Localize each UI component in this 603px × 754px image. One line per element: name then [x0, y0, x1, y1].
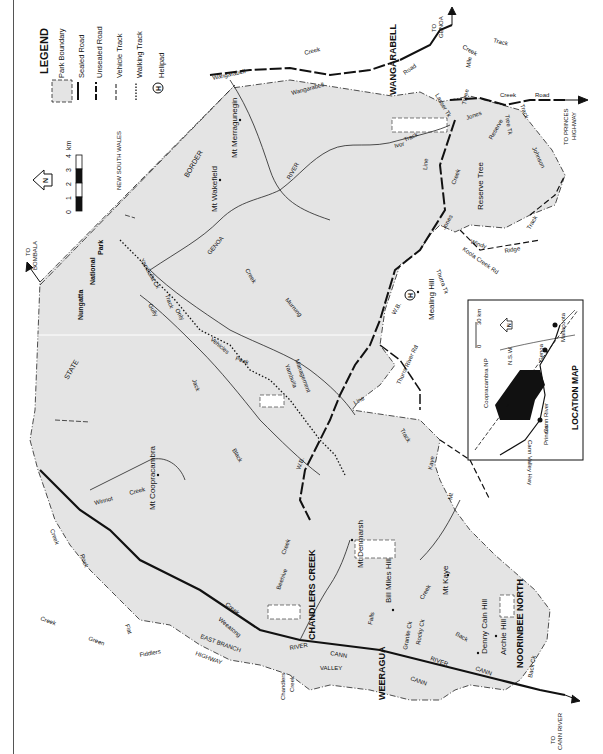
helipad-icon: H — [153, 83, 163, 93]
svg-text:Green: Green — [88, 635, 106, 646]
legend-park-boundary-label: Park Boundary — [57, 28, 66, 78]
np-label-nungatta: Nungatta — [77, 290, 85, 320]
svg-text:Track: Track — [493, 37, 510, 47]
scale-tick-4: 4 — [65, 154, 72, 158]
svg-text:Mt: Mt — [447, 492, 454, 500]
peak-coopracambra: Mt Coopracambra — [148, 445, 157, 510]
peak-merragunegin: Mt Merragunegin — [230, 98, 239, 158]
inset-mallacoota-label: Mallacoota — [560, 312, 566, 342]
inset-np-label: Coopracambra NP — [483, 358, 489, 408]
scale-tick-2: 2 — [65, 182, 72, 186]
svg-text:Fiddlers: Fiddlers — [139, 648, 161, 658]
svg-text:Wangarabell: Wangarabell — [212, 68, 246, 81]
peak-denmarsh: Mt Denmarsh — [356, 520, 365, 568]
svg-text:Creek: Creek — [304, 46, 322, 56]
town-weeragua: WEERAGUA — [377, 646, 387, 700]
peak-denny-cain: Denny Cain Hill — [480, 599, 489, 654]
dest-bombala-1: TO — [25, 247, 31, 256]
svg-text:H: H — [155, 86, 162, 91]
dest-princes-2: HIGHWAY — [571, 112, 577, 140]
dest-genoa-2: GENOA — [438, 16, 444, 38]
dest-cann-2: CANN RIVER — [557, 712, 563, 750]
legend-sealed-road-label: Sealed Road — [77, 35, 86, 78]
peak-archie: Archie Hill — [499, 619, 508, 655]
scale-tick-1: 1 — [65, 196, 72, 200]
svg-text:N: N — [42, 178, 49, 183]
svg-text:H: H — [407, 293, 414, 298]
legend-helipad-label: Helipad — [157, 53, 166, 78]
svg-text:Creek: Creek — [500, 92, 517, 98]
dest-genoa-1: TO — [431, 23, 437, 32]
inset-hwy-label: Hwy — [527, 396, 533, 408]
svg-text:W.B.: W.B. — [391, 301, 403, 315]
inset-scale-30: 30 km — [476, 309, 482, 325]
svg-text:N: N — [506, 323, 512, 327]
svg-text:Ridge: Ridge — [504, 245, 521, 254]
town-wangarabell: WANGARABELL — [388, 24, 398, 95]
legend-unsealed-road-label: Unsealed Road — [95, 26, 104, 78]
scale-unit: km — [65, 141, 72, 151]
inset-princes-label: Princes — [543, 425, 549, 445]
legend-park-boundary-swatch — [52, 80, 72, 102]
svg-text:Line: Line — [422, 158, 429, 170]
svg-text:Road: Road — [402, 63, 417, 76]
reserve-tree-label: Reserve Tree — [476, 161, 485, 210]
town-noorinbee-north: NOORINBEE NORTH — [515, 579, 525, 668]
svg-text:Creek: Creek — [49, 528, 60, 546]
north-arrow-icon: N — [33, 170, 52, 190]
inset-title: LOCATION MAP — [570, 365, 580, 430]
peak-wakefield: Mt Wakefield — [210, 166, 219, 212]
np-label-national: National — [89, 257, 96, 285]
dest-cann-1: TO — [550, 735, 556, 744]
svg-text:Flat: Flat — [124, 623, 133, 635]
town-chandlers-creek: CHANDLERS CREEK — [307, 549, 317, 640]
svg-text:Thurra River Rd: Thurra River Rd — [395, 344, 418, 385]
svg-text:Thurra Tk: Thurra Tk — [435, 268, 450, 295]
inset-genoa-label: Genoa — [538, 343, 544, 362]
inset-nsw-label: N.S.W. — [507, 346, 513, 365]
inset-mallacoota-dot — [553, 323, 558, 328]
svg-text:Creek: Creek — [40, 615, 58, 626]
dest-princes-1: TO PRINCES — [563, 108, 569, 145]
park-map[interactable]: LEGEND Park Boundary Sealed Road Unseale… — [0, 0, 603, 754]
helipad-icon: H — [405, 290, 415, 300]
inset-cann-valley-hwy-label: Cann Valley Hwy — [527, 440, 533, 485]
legend-walking-track-label: Walking Track — [135, 31, 144, 78]
svg-text:VALLEY: VALLEY — [320, 665, 342, 671]
location-map-inset: 0 30 km Coopracambra NP N.S.W. Genoa Mal… — [468, 300, 583, 485]
np-label-park: Park — [97, 240, 104, 255]
peak-kaye: Mt Kaye — [441, 565, 450, 595]
dest-bombala-2: BOMBALA — [32, 241, 38, 270]
legend: LEGEND Park Boundary Sealed Road Unseale… — [38, 26, 166, 102]
nsw-label: NEW SOUTH WALES — [116, 131, 122, 190]
legend-title: LEGEND — [38, 28, 50, 74]
peak-mealing: Mealing Hill — [427, 278, 436, 320]
scale-tick-3: 3 — [65, 168, 72, 172]
svg-text:Mile: Mile — [465, 56, 473, 69]
svg-text:Creek: Creek — [289, 675, 295, 692]
svg-text:Windy: Windy — [470, 238, 488, 249]
peak-bill-miles: Bill Miles Hill — [384, 558, 393, 603]
scale-tick-0: 0 — [65, 210, 72, 214]
svg-text:Road: Road — [535, 92, 549, 98]
svg-text:Creek: Creek — [462, 44, 480, 58]
legend-vehicle-track-label: Vehicle Track — [115, 33, 124, 78]
svg-text:Chandlers: Chandlers — [280, 673, 286, 700]
scale-bar: 0 1 2 3 4 km — [65, 141, 82, 215]
inset-cann-river-dot — [538, 418, 543, 423]
